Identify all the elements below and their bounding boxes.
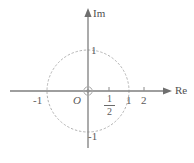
fraction-numerator: 1 bbox=[104, 94, 115, 105]
origin-point-marker-inner bbox=[86, 89, 89, 92]
imag-axis-arrowhead bbox=[84, 8, 91, 17]
real-axis-arrowhead bbox=[163, 87, 172, 94]
tick-label-real-one: 1 bbox=[126, 95, 132, 106]
tick-label-real-two: 2 bbox=[141, 95, 147, 106]
origin-label: O bbox=[73, 95, 81, 106]
tick-label-real-negative-one: -1 bbox=[33, 95, 42, 106]
tick-label-real-half: 1 2 bbox=[104, 94, 115, 117]
argand-diagram-figure: Re Im O -1 1 2 1 2 1 -1 bbox=[0, 0, 194, 163]
tick-label-imag-negative-one: -1 bbox=[88, 131, 97, 142]
fraction-denominator: 2 bbox=[104, 107, 115, 118]
tick-label-imag-one: 1 bbox=[91, 45, 97, 56]
real-axis-label: Re bbox=[175, 85, 187, 96]
imag-axis-label: Im bbox=[93, 8, 105, 19]
